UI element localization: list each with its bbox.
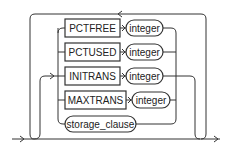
svg-text:storage_clause: storage_clause <box>67 119 135 130</box>
keyword-pctfree: PCTFREE <box>65 19 120 37</box>
keyword-maxtrans: MAXTRANS <box>65 91 126 109</box>
keyword-pctused: PCTUSED <box>65 43 120 61</box>
svg-text:integer: integer <box>129 71 160 82</box>
param-integer-maxtrans: integer <box>132 92 170 108</box>
inner-entry-line <box>34 76 65 139</box>
svg-text:MAXTRANS: MAXTRANS <box>68 95 124 106</box>
svg-text:integer: integer <box>136 95 167 106</box>
svg-text:integer: integer <box>129 23 160 34</box>
svg-text:INITRANS: INITRANS <box>69 71 116 82</box>
syntax-diagram: PCTFREE PCTUSED INITRANS MAXTRANS intege… <box>0 0 226 150</box>
param-integer-pctused: integer <box>126 44 163 60</box>
storage-clause: storage_clause <box>65 116 136 132</box>
keyword-initrans: INITRANS <box>65 67 120 85</box>
svg-text:PCTUSED: PCTUSED <box>69 47 117 58</box>
param-integer-initrans: integer <box>126 68 163 84</box>
inner-exit-line <box>163 76 200 139</box>
svg-text:PCTFREE: PCTFREE <box>69 23 116 34</box>
param-integer-pctfree: integer <box>126 20 163 36</box>
svg-text:integer: integer <box>129 47 160 58</box>
